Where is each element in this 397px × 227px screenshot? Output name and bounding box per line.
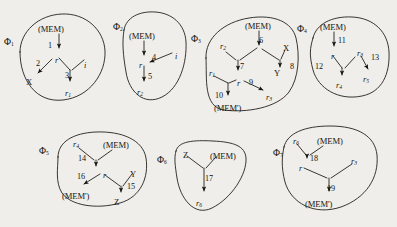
phi1-name-subscript: 1: [11, 41, 14, 47]
phi7-mem: (MEM): [317, 137, 343, 146]
phi1-edge2: 2: [36, 60, 40, 68]
phi6-name-subscript: 6: [164, 159, 167, 165]
phi4-edge11: 11: [338, 37, 346, 45]
phi3-edge7: 7: [240, 63, 244, 71]
phi3-arrow-9: [244, 81, 263, 90]
phi4-edge12: 12: [315, 63, 323, 71]
phi1-arrow-2: [38, 59, 52, 73]
phi4-r4-subscript: 4: [339, 84, 342, 90]
phi5-edge15: 15: [127, 183, 135, 191]
phi7-r6: r6: [293, 138, 299, 147]
phi7-name: Φ7: [273, 148, 283, 159]
phi3-r2: r2: [220, 43, 226, 52]
phi3-arrow-7b: [240, 48, 257, 60]
phi6-r6: r6: [196, 200, 202, 209]
phi4-name-subscript: 4: [304, 28, 307, 34]
phi3-r2-subscript: 2: [223, 45, 226, 51]
phi6-edge17: 17: [205, 175, 213, 183]
phi5-edge14: 14: [78, 155, 86, 163]
phi2-name: Φ2: [113, 22, 123, 33]
phi2-r2-subscript: 2: [140, 91, 143, 97]
phi3-name-subscript: 3: [198, 38, 201, 44]
phi4-name: Φ4: [297, 24, 307, 35]
phi1-x: X: [26, 78, 32, 87]
phi5-arrow-14b: [98, 150, 112, 160]
phi6-mem: (MEM): [210, 152, 236, 161]
phi3-edge10: 10: [215, 92, 223, 100]
phi7-r: r: [299, 165, 302, 173]
phi1-arrow-3a: [59, 58, 70, 70]
phi1-r1: r1: [65, 90, 71, 99]
phi5-y: Y: [130, 170, 136, 179]
phi4-r: r: [331, 53, 334, 61]
phi5-r4: r4: [73, 141, 79, 150]
phi3-y: Y: [274, 69, 280, 78]
phi2-edge5: 5: [148, 73, 152, 81]
phi7-memp: (MEM'): [305, 200, 332, 209]
phi1-mem: (MEM): [38, 25, 64, 34]
phi7-r3: r3: [351, 158, 357, 167]
phi4-arrow-12a: [333, 56, 342, 68]
phi5-r: r: [103, 172, 106, 180]
phi4-edge13: 13: [371, 54, 379, 62]
phi2-edge4: 4: [152, 54, 156, 62]
phi3-r1-subscript: 1: [212, 72, 215, 78]
phi3-r: r: [237, 80, 240, 88]
phi1-r1-subscript: 1: [68, 92, 71, 98]
phi5-name: Φ5: [39, 146, 49, 157]
phi4-r3-subscript: 3: [360, 52, 363, 58]
phi3-r3-subscript: 3: [269, 96, 272, 102]
phi3-arrow-8a: [262, 49, 279, 60]
phi5-arrow-16: [84, 174, 100, 184]
phi3-edge6: 6: [259, 37, 263, 45]
phi4-arrow-12b: [345, 57, 355, 68]
phi4-mem: (MEM): [320, 23, 346, 32]
phi4-r5: r5: [363, 76, 369, 85]
phi1-i: i: [84, 62, 86, 70]
phi3-r3: r3: [266, 94, 272, 103]
phi2-r2: r2: [137, 89, 143, 98]
phi4-r3: r3: [357, 50, 363, 59]
phi2-name-subscript: 2: [120, 26, 123, 32]
phi1-r: r: [55, 57, 58, 65]
phi4-r5-subscript: 5: [366, 78, 369, 84]
phi5-z: Z: [114, 198, 119, 207]
phi2-i: i: [175, 53, 177, 61]
phi7-edge18: 18: [310, 155, 318, 163]
phi3-edge9: 9: [249, 79, 253, 87]
dataflow-fragments-figure: Φ1(MEM)1r2iX3r1Φ2(MEM)r4i5r2Φ3(MEM)6r2X7…: [0, 0, 397, 227]
phi6-arrow-17a: [187, 156, 203, 168]
phi5-name-subscript: 5: [46, 150, 49, 156]
phi7-arrow-19b: [331, 164, 352, 178]
phi3-mem: (MEM): [245, 22, 271, 31]
phi3-memp: (MEM'): [214, 104, 241, 113]
phi1-name: Φ1: [4, 37, 14, 48]
phi5-r4-subscript: 4: [76, 143, 79, 149]
phi7-name-subscript: 7: [280, 152, 283, 158]
phi3-edge8: 8: [290, 63, 294, 71]
phi1-arrow-3b: [72, 60, 84, 70]
phi6-z: Z: [183, 151, 188, 160]
phi3-r1: r1: [209, 70, 215, 79]
phi1-edge1: 1: [48, 42, 52, 50]
phi1-edge3: 3: [65, 72, 69, 80]
phi3-arrow-10b: [229, 80, 236, 83]
phi7-r6-subscript: 6: [296, 140, 299, 146]
phi2-mem: (MEM): [129, 32, 155, 41]
phi7-r3-subscript: 3: [354, 160, 357, 166]
phi3-x: X: [283, 44, 289, 53]
phi6-name: Φ6: [157, 155, 167, 166]
phi6-r6-subscript: 6: [199, 202, 202, 208]
phi3-arrow-10a: [214, 76, 228, 83]
phi3-arrow-7a: [226, 52, 236, 60]
phi5-edge16: 16: [77, 173, 85, 181]
phi7-edge19: 19: [327, 185, 335, 193]
phi7-arrow-19a: [304, 168, 327, 178]
phi5-mem: (MEM): [103, 141, 129, 150]
phi5-arrow-15a: [105, 175, 120, 186]
phi2-r: r: [139, 62, 142, 70]
phi5-memp: (MEM'): [62, 192, 89, 201]
phi3-name: Φ3: [191, 34, 201, 45]
phi4-r4: r4: [336, 82, 342, 91]
